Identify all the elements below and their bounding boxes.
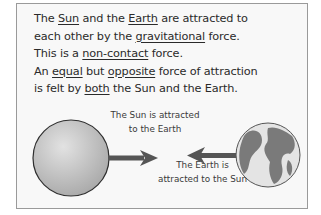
- earth-caption-line-1: The Earth is: [145, 158, 260, 172]
- sun-caption-line-1: The Sun is attracted: [100, 108, 210, 122]
- sun-caption: The Sun is attracted to the Earth: [100, 108, 210, 136]
- sun-caption-line-2: to the Earth: [100, 122, 210, 136]
- earth-caption-line-2: attracted to the Sun: [145, 172, 260, 186]
- sun-icon: [33, 120, 109, 196]
- earth-caption: The Earth is attracted to the Sun: [145, 158, 260, 186]
